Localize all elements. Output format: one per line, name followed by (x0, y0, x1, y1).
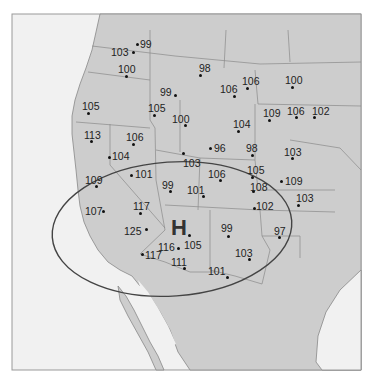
temperature-label: 101 (187, 185, 205, 196)
station-dot (174, 94, 177, 97)
temperature-label: 98 (246, 143, 258, 154)
temperature-label: 106 (242, 76, 260, 87)
station-dot (227, 235, 230, 238)
station-dot (209, 147, 212, 150)
station-dot (145, 228, 148, 231)
temperature-label: 106 (220, 84, 238, 95)
temperature-label: 97 (274, 226, 286, 237)
station-dot (280, 180, 283, 183)
temperature-label: 109 (285, 176, 303, 187)
station-dot (182, 152, 185, 155)
temperature-label: 103 (111, 47, 129, 58)
temperature-label: 100 (172, 114, 190, 125)
temperature-label: 108 (250, 182, 268, 193)
temperature-label: 103 (296, 193, 314, 204)
temperature-label: 102 (256, 201, 274, 212)
temperature-label: 99 (160, 87, 172, 98)
temperature-label: 117 (145, 250, 162, 261)
temperature-label: 99 (221, 223, 233, 234)
temperature-label: 117 (133, 201, 150, 212)
temperature-label: 105 (247, 165, 265, 176)
temperature-label: 104 (233, 119, 251, 130)
temperature-label: 99 (140, 39, 152, 50)
temperature-label: 100 (285, 75, 303, 86)
temperature-label: 98 (199, 63, 211, 74)
temperature-label: 113 (84, 130, 101, 141)
temperature-label: 109 (85, 175, 103, 186)
station-dot (141, 253, 144, 256)
temperature-label: 109 (263, 108, 281, 119)
station-dot (130, 174, 133, 177)
temperature-label: 103 (235, 248, 253, 259)
temperature-label: 105 (82, 101, 100, 112)
station-dot (188, 234, 191, 237)
temperature-label: 125 (124, 226, 142, 237)
station-dot (108, 156, 111, 159)
temperature-label: 101 (208, 266, 226, 277)
temperature-label: 100 (118, 64, 136, 75)
temperature-label: 104 (112, 151, 130, 162)
high-pressure-label: H (171, 215, 187, 241)
temperature-label: 101 (135, 169, 153, 180)
station-dot (132, 51, 135, 54)
temperature-label: 111 (171, 257, 187, 268)
station-dot (136, 43, 139, 46)
temperature-label: 105 (148, 103, 166, 114)
temperature-label: 103 (284, 147, 302, 158)
temperature-label: 99 (162, 180, 174, 191)
temperature-label: 102 (312, 106, 330, 117)
temperature-label: 103 (183, 158, 201, 169)
temperature-label: 107 (85, 206, 103, 217)
temperature-label: 106 (208, 169, 226, 180)
temperature-label: 106 (126, 132, 144, 143)
temperature-label: 106 (287, 106, 305, 117)
station-dot (177, 247, 180, 250)
temperature-label: 96 (214, 143, 226, 154)
temperature-label: 105 (184, 240, 202, 251)
